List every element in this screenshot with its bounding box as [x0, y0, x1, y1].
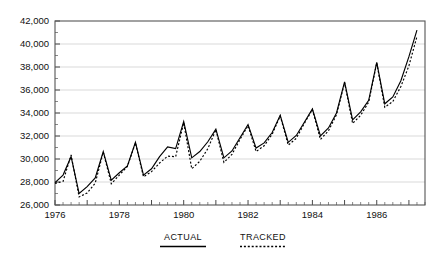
x-axis-tick-label: 1976 — [44, 209, 65, 220]
y-axis-tick-labels-group: 26,00028,00030,00032,00034,00036,00038,0… — [20, 15, 49, 210]
x-axis-tick-label: 1980 — [173, 209, 194, 220]
x-axis-tick-label: 1978 — [109, 209, 130, 220]
y-axis-tick-label: 30,000 — [20, 153, 49, 164]
y-axis-tick-label: 34,000 — [20, 107, 49, 118]
legend-label-tracked: TRACKED — [240, 232, 286, 242]
x-axis-tick-label: 1982 — [237, 209, 258, 220]
line-chart-figure: 26,00028,00030,00032,00034,00036,00038,0… — [0, 0, 448, 255]
legend-label-actual: ACTUAL — [164, 232, 202, 242]
y-axis-tick-label: 42,000 — [20, 15, 49, 26]
y-axis-tick-label: 38,000 — [20, 61, 49, 72]
x-axis-tick-label: 1984 — [302, 209, 323, 220]
y-axis-tick-label: 32,000 — [20, 130, 49, 141]
x-axis-tick-label: 1986 — [366, 209, 387, 220]
y-axis-tick-label: 36,000 — [20, 84, 49, 95]
y-axis-tick-label: 28,000 — [20, 176, 49, 187]
y-axis-tick-label: 40,000 — [20, 38, 49, 49]
